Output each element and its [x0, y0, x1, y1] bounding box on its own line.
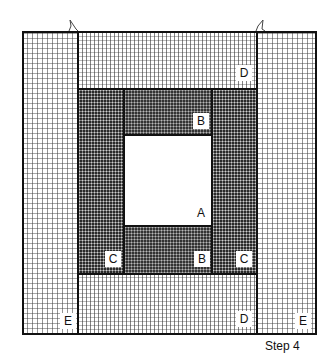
label-e-left: E — [60, 313, 76, 329]
label-c-left: C — [105, 251, 121, 267]
label-c-right: C — [236, 251, 252, 267]
block-outline — [22, 31, 317, 335]
label-b-bottom: B — [194, 251, 210, 267]
label-d-top: D — [236, 65, 252, 81]
label-d-bottom: D — [236, 311, 252, 327]
label-b-top: B — [193, 113, 209, 129]
label-a: A — [193, 205, 209, 221]
fold-notch-icon — [255, 19, 265, 31]
fold-notch-icon — [68, 19, 78, 31]
label-e-right: E — [295, 313, 311, 329]
step-caption: Step 4 — [265, 339, 300, 353]
